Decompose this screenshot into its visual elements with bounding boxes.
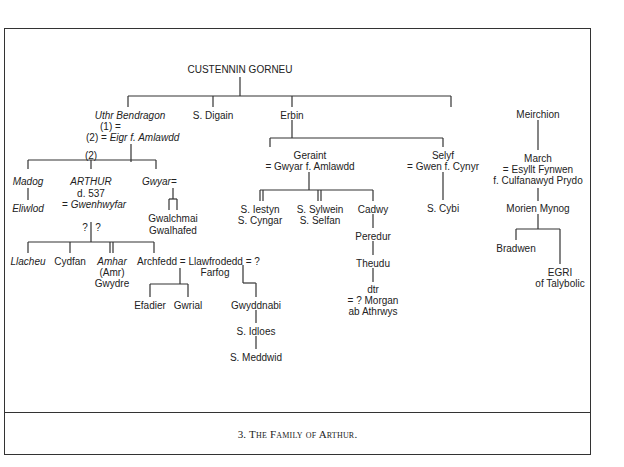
march-spouse-patronym: f. Culfanawyd Prydo — [493, 175, 583, 187]
person-morien-mynog: Morien Mynog — [506, 203, 569, 215]
person-cadwy: Cadwy — [358, 204, 389, 216]
selyf-spouse: = Gwen f. Cynyr — [407, 161, 479, 173]
person-llacheu: Llacheu — [10, 256, 45, 268]
gwyar-name: Gwyar — [142, 176, 171, 187]
person-theudu: Theudu — [356, 258, 390, 270]
person-custennin-gorneu: CUSTENNIN GORNEU — [187, 64, 292, 76]
gwyar-marriage-sign: = — [171, 176, 177, 187]
geraint-spouse: = Gwyar f. Amlawdd — [265, 161, 354, 173]
person-s-digain: S. Digain — [193, 110, 234, 122]
arthur-spouse: = Gwenhwyfar — [62, 199, 126, 211]
tree-connectors — [0, 0, 624, 467]
person-meirchion: Meirchion — [516, 109, 559, 121]
person-gwyar: Gwyar= — [142, 176, 177, 188]
egri-of-talybolic: of Talybolic — [535, 278, 584, 290]
person-s-cybi: S. Cybi — [427, 203, 459, 215]
person-s-cyngar: S. Cyngar — [238, 215, 282, 227]
person-bradwen: Bradwen — [496, 243, 535, 255]
person-madog: Madog — [13, 176, 44, 188]
person-s-idloes: S. Idloes — [237, 326, 276, 338]
person-gwyddnabi: Gwyddnabi — [231, 300, 281, 312]
person-eigr: Eigr f. Amlawdd — [110, 132, 180, 143]
marriage-2-prefix: (2) = — [86, 132, 110, 143]
person-gwenhwyfar: Gwenhwyfar — [71, 199, 127, 210]
person-gwrial: Gwrial — [174, 300, 202, 312]
uthr-marriage-2: (2) = Eigr f. Amlawdd — [86, 132, 179, 144]
morgan-patronym: ab Athrwys — [349, 306, 398, 318]
person-peredur: Peredur — [355, 231, 391, 243]
marriage-2-marker: (2) — [85, 150, 97, 162]
person-s-selfan: S. Selfan — [300, 215, 341, 227]
person-gwydre: Gwydre — [95, 278, 129, 290]
person-archfedd-llawfrodedd: Archfedd = Llawfrodedd = ? — [137, 256, 260, 268]
spouse-prefix: = — [62, 199, 71, 210]
person-erbin: Erbin — [280, 110, 303, 122]
uncertain-mark-1: ? — [82, 222, 88, 234]
uncertain-mark-2: ? — [95, 222, 101, 234]
person-gwalchmai: Gwalchmai — [148, 213, 197, 225]
person-eliwlod: Eliwlod — [12, 203, 44, 215]
person-gwalhafed: Gwalhafed — [149, 225, 197, 237]
llawfrodedd-epithet-farfog: Farfog — [201, 267, 230, 279]
person-arthur: ARTHUR — [70, 176, 111, 188]
person-s-meddwid: S. Meddwid — [230, 352, 282, 364]
person-efadier: Efadier — [134, 300, 166, 312]
person-cydfan: Cydfan — [54, 256, 86, 268]
